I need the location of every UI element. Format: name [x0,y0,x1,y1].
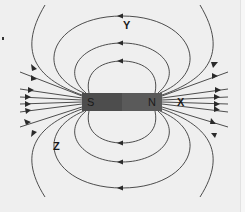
field-line-outer-left-bottom [32,109,82,197]
field-line-bottom-small [88,111,156,143]
field-line-outer-right-bottom [162,109,213,197]
point-label-y: Y [123,20,130,31]
point-label-x: X [177,97,184,108]
field-line-top-medium [75,43,170,93]
south-pole-label: S [87,97,94,108]
frame-border [240,0,245,212]
point-label-z: Z [53,141,60,152]
field-line-top-large [54,16,190,93]
field-line-top-small [88,61,156,93]
field-line-bottom-medium [75,111,170,162]
field-line-bottom-large [54,111,190,188]
field-line-outer-left-top [32,5,82,95]
field-line-outer-right-top [162,5,213,95]
magnetic-field-diagram [0,0,245,212]
north-pole-label: N [148,97,156,108]
